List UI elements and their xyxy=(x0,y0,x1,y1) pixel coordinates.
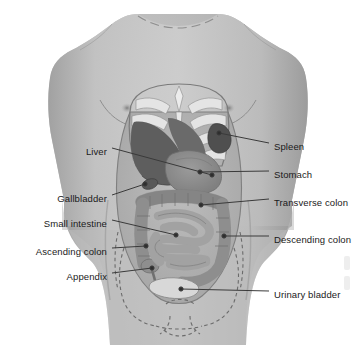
label-liver: Liver xyxy=(86,146,107,157)
label-descending-colon: Descending colon xyxy=(274,234,351,245)
anatomy-diagram-canvas: Liver Gallbladder Small intestine Ascend… xyxy=(0,0,354,345)
label-appendix: Appendix xyxy=(67,271,107,282)
label-small-intestine: Small intestine xyxy=(44,218,107,229)
edge-artifact xyxy=(344,256,350,290)
label-spleen: Spleen xyxy=(274,141,304,152)
label-urinary-bladder: Urinary bladder xyxy=(274,289,340,300)
label-gallbladder: Gallbladder xyxy=(57,193,107,204)
label-transverse-colon: Transverse colon xyxy=(274,197,348,208)
label-ascending-colon: Ascending colon xyxy=(36,246,107,257)
label-stomach: Stomach xyxy=(274,169,312,180)
